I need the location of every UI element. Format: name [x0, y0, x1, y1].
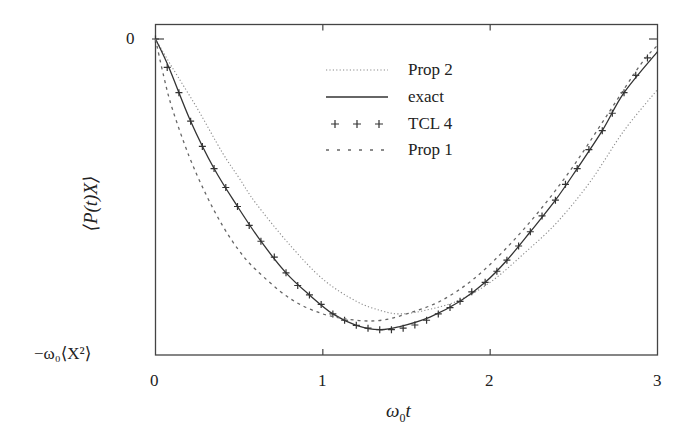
series-tcl-4-marker: [376, 326, 383, 333]
series-tcl-4-marker: [271, 254, 278, 261]
series-group: [152, 36, 658, 334]
series-prop-2: [156, 39, 658, 314]
x-tick-1: 1: [318, 372, 327, 389]
x-axis-label: ω0t: [386, 400, 411, 426]
x-tick-0: 0: [150, 372, 159, 389]
y-tick-0: 0: [126, 30, 135, 47]
plot-frame: [156, 25, 658, 356]
y-tick-bottom: −ω₀⟨X²⟩: [34, 345, 91, 362]
x-tick-3: 3: [653, 372, 662, 389]
legend-label-prop2: Prop 2: [408, 60, 453, 80]
y-axis-label: ⟨P(t)X⟩: [79, 164, 102, 244]
series-exact: [156, 39, 658, 330]
chart-canvas: [0, 0, 694, 443]
x-tick-2: 2: [485, 372, 494, 389]
series-tcl-4-marker: [388, 326, 395, 333]
series-tcl-4-marker: [187, 118, 194, 125]
axis-ticks: [156, 25, 658, 356]
legend-sample-plus: [375, 120, 383, 128]
legend-label-prop1: Prop 1: [408, 140, 453, 160]
legend-label-exact: exact: [408, 87, 444, 107]
series-tcl-4-marker: [353, 322, 360, 329]
legend-samples: [326, 70, 392, 150]
series-tcl-4-marker: [599, 127, 606, 134]
legend-sample-plus: [353, 120, 361, 128]
series-tcl-4-marker: [199, 143, 206, 150]
series-tcl-4-marker: [365, 325, 372, 332]
series-tcl-4-marker: [341, 317, 348, 324]
series-tcl-4-marker: [457, 298, 464, 305]
series-tcl-4-marker: [211, 165, 218, 172]
legend-sample-plus: [331, 120, 339, 128]
series-prop-1: [156, 39, 658, 321]
legend-label-tcl4: TCL 4: [408, 114, 452, 134]
series-tcl-4-marker: [574, 165, 581, 172]
series-tcl-4-marker: [175, 89, 182, 96]
series-tcl-4-marker: [234, 203, 241, 210]
